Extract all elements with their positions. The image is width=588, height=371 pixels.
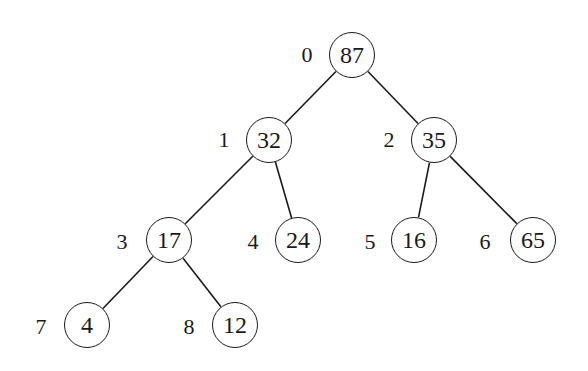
tree-edge (419, 163, 430, 218)
tree-edge (275, 162, 291, 218)
tree-edge (183, 258, 221, 307)
tree-node-0: 87 (329, 32, 375, 78)
index-label-0: 0 (302, 42, 313, 68)
tree-node-3: 17 (146, 217, 192, 263)
tree-node-6: 65 (510, 217, 556, 263)
tree-edge (285, 71, 336, 123)
tree-edge (368, 72, 418, 124)
index-label-2: 2 (384, 127, 395, 153)
tree-node-1: 32 (246, 117, 292, 163)
tree-node-2: 35 (411, 117, 457, 163)
tree-edge (185, 156, 252, 223)
index-label-1: 1 (219, 127, 230, 153)
tree-edge (103, 257, 153, 309)
index-label-4: 4 (248, 229, 259, 255)
index-label-5: 5 (365, 229, 376, 255)
tree-node-5: 16 (391, 217, 437, 263)
tree-node-4: 24 (275, 217, 321, 263)
index-label-3: 3 (117, 229, 128, 255)
index-label-8: 8 (184, 314, 195, 340)
tree-node-7: 4 (64, 302, 110, 348)
index-label-6: 6 (480, 229, 491, 255)
index-label-7: 7 (36, 314, 47, 340)
tree-node-8: 12 (212, 302, 258, 348)
heap-tree-diagram: 0 87 1 32 2 35 3 17 4 24 5 16 6 65 7 4 8… (0, 0, 588, 371)
tree-edge (450, 156, 517, 223)
